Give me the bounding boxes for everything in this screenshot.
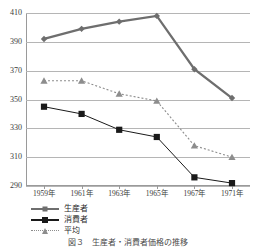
data-point-marker	[78, 26, 84, 32]
triangle-marker-icon	[42, 228, 48, 234]
legend-label: 平均	[64, 226, 80, 236]
diamond-marker-icon	[43, 206, 48, 211]
chart-legend: 生産者消費者平均	[30, 203, 140, 236]
x-tick-label: 1971年	[221, 189, 243, 198]
data-point-marker	[40, 77, 47, 83]
figure-caption: 図３ 生産者・消費者価格の推移	[0, 238, 256, 248]
y-tick-label: 390	[10, 38, 22, 46]
series-line	[44, 16, 232, 98]
data-point-marker	[191, 174, 197, 180]
x-tick-label: 1965年	[146, 189, 168, 198]
gridline	[26, 186, 250, 187]
plot-area: 290310330350370390410 1959年1961年1963年196…	[26, 13, 250, 186]
data-point-marker	[229, 180, 235, 186]
x-tick-label: 1967年	[183, 189, 205, 198]
data-point-marker	[78, 77, 85, 83]
data-point-marker	[116, 127, 122, 133]
legend-label: 消費者	[64, 215, 88, 225]
x-tick-label: 1959年	[33, 189, 55, 198]
series-plot	[26, 13, 250, 186]
legend-item[interactable]: 生産者	[30, 203, 140, 214]
data-point-marker	[41, 36, 47, 42]
data-point-marker	[116, 90, 123, 96]
legend-swatch	[30, 214, 60, 225]
series-line	[44, 107, 232, 183]
legend-swatch	[30, 225, 60, 236]
y-tick-label: 330	[10, 124, 22, 132]
legend-item[interactable]: 平均	[30, 225, 140, 236]
y-tick-label: 350	[10, 96, 22, 104]
x-tick-label: 1963年	[108, 189, 130, 198]
y-tick-label: 410	[10, 9, 22, 17]
data-point-marker	[79, 111, 85, 117]
legend-item[interactable]: 消費者	[30, 214, 140, 225]
x-tick-label: 1961年	[71, 189, 93, 198]
legend-swatch	[30, 203, 60, 214]
y-tick-label: 290	[10, 182, 22, 190]
y-tick-label: 310	[10, 153, 22, 161]
square-marker-icon	[42, 217, 48, 223]
legend-label: 生産者	[64, 204, 88, 214]
chart-figure: 290310330350370390410 1959年1961年1963年196…	[0, 0, 256, 248]
data-point-marker	[191, 142, 198, 148]
data-point-marker	[116, 18, 122, 24]
data-point-marker	[41, 104, 47, 110]
data-point-marker	[228, 154, 235, 160]
series-line	[44, 81, 232, 157]
y-tick-label: 370	[10, 67, 22, 75]
data-point-marker	[154, 134, 160, 140]
